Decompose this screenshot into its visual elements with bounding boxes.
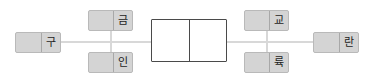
node-gyo-blank-cell	[245, 11, 270, 30]
node-geum-blank-cell	[89, 11, 114, 30]
node-gu-label: 구	[42, 33, 60, 52]
node-center[interactable]	[151, 19, 227, 62]
connector-gu-to-center	[60, 41, 152, 43]
connector-geum-to-in	[110, 30, 112, 53]
node-gyo-label: 교	[270, 11, 288, 30]
flow-diagram-canvas: 구 금 인 교 륙 란	[0, 0, 374, 82]
node-gu[interactable]: 구	[15, 32, 61, 53]
node-center-right-cell	[189, 20, 226, 61]
node-gu-blank-cell	[16, 33, 42, 52]
node-geum[interactable]: 금	[88, 10, 133, 31]
node-in-label: 인	[114, 53, 132, 72]
node-ryuk[interactable]: 륙	[244, 52, 289, 73]
node-center-left-cell	[152, 20, 189, 61]
node-ran[interactable]: 란	[313, 32, 359, 53]
node-gyo[interactable]: 교	[244, 10, 289, 31]
connector-gyo-to-ryuk	[266, 30, 268, 53]
node-ryuk-blank-cell	[245, 53, 270, 72]
node-in-blank-cell	[89, 53, 114, 72]
node-geum-label: 금	[114, 11, 132, 30]
node-ryuk-label: 륙	[270, 53, 288, 72]
node-ran-label: 란	[340, 33, 358, 52]
connector-center-to-ran	[226, 41, 314, 43]
node-in[interactable]: 인	[88, 52, 133, 73]
node-ran-blank-cell	[314, 33, 340, 52]
